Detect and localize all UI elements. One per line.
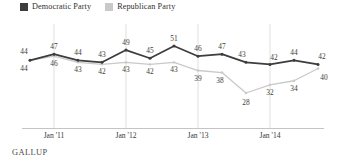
x-axis-line: [22, 128, 324, 129]
data-point: [53, 53, 56, 56]
value-label: 43: [170, 65, 177, 74]
data-point: [125, 49, 128, 52]
data-point: [245, 61, 248, 64]
data-point: [317, 63, 320, 66]
value-label: 44: [20, 47, 27, 56]
data-point: [245, 92, 247, 94]
value-label: 43: [122, 65, 129, 74]
data-point: [317, 67, 319, 69]
value-label: 42: [146, 67, 153, 76]
legend-swatch-icon: [20, 3, 28, 11]
value-label: 47: [50, 42, 57, 51]
data-point: [197, 69, 199, 71]
legend-item-republican: Republican Party: [105, 3, 175, 11]
source-attribution: GALLUP: [12, 148, 47, 157]
data-point: [77, 59, 80, 62]
value-label: 38: [216, 76, 223, 85]
chart-legend: Democratic Party Republican Party: [20, 3, 175, 11]
value-label: 39: [194, 74, 201, 83]
data-point: [125, 61, 127, 63]
data-point: [173, 61, 175, 63]
value-label: 45: [146, 46, 153, 55]
value-label: 43: [238, 50, 245, 59]
value-label: 44: [74, 48, 81, 57]
x-axis-tick-labels: Jan '11Jan '12Jan '13Jan '14: [0, 131, 345, 145]
data-point: [221, 53, 224, 56]
legend-item-democratic: Democratic Party: [20, 3, 91, 11]
data-point: [269, 63, 272, 66]
data-point: [101, 61, 104, 64]
chart-container: Democratic Party Republican Party 444744…: [0, 0, 345, 165]
value-label: 49: [122, 38, 129, 47]
legend-swatch-icon: [105, 3, 113, 11]
value-label: 42: [318, 52, 325, 61]
x-axis-label: Jan '11: [44, 131, 65, 140]
value-label: 32: [266, 88, 273, 97]
value-label: 43: [74, 65, 81, 74]
data-point: [173, 45, 176, 48]
value-label: 51: [170, 34, 177, 43]
value-label: 28: [242, 98, 249, 107]
data-point: [149, 63, 151, 65]
value-label: 34: [290, 84, 297, 93]
value-label: 42: [98, 67, 105, 76]
value-label: 42: [270, 53, 277, 62]
data-point: [29, 59, 32, 62]
value-label: 44: [20, 64, 27, 73]
value-label: 40: [320, 73, 327, 82]
data-point: [269, 84, 271, 86]
legend-label-republican: Republican Party: [117, 3, 175, 11]
data-point: [149, 57, 152, 60]
value-label: 47: [218, 42, 225, 51]
x-axis-label: Jan '14: [260, 131, 281, 140]
value-label: 43: [98, 50, 105, 59]
legend-label-democratic: Democratic Party: [32, 3, 91, 11]
data-point: [293, 59, 296, 62]
data-point: [293, 80, 295, 82]
x-axis-label: Jan '12: [116, 131, 137, 140]
x-axis-label: Jan '13: [188, 131, 209, 140]
value-label: 44: [290, 48, 297, 57]
data-point: [197, 55, 200, 58]
value-label: 46: [50, 59, 57, 68]
value-label: 46: [194, 44, 201, 53]
data-point: [221, 71, 223, 73]
